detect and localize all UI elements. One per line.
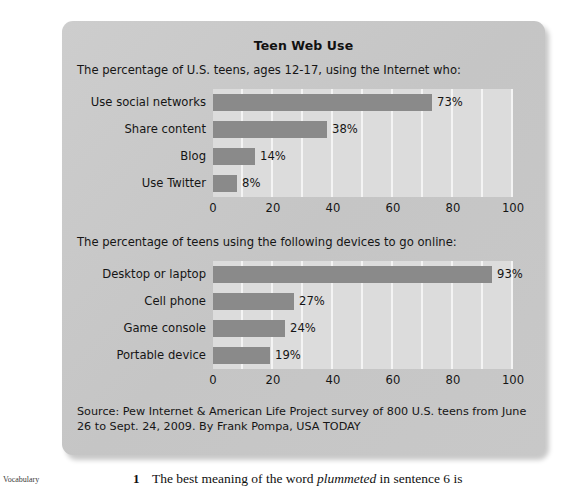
- bar-category-label: Portable device: [62, 342, 206, 369]
- bar-value-label: 27%: [294, 288, 325, 315]
- bar-value-label: 38%: [327, 116, 358, 143]
- bar-value-label: 8%: [237, 170, 260, 197]
- bar-category-label: Use Twitter: [62, 170, 206, 197]
- bar-value-label: 24%: [285, 315, 316, 342]
- bar-track: 19%: [213, 342, 513, 369]
- bar-track: 73%: [213, 89, 513, 116]
- bar-category-label: Game console: [62, 315, 206, 342]
- chart-subtitle-1: The percentage of U.S. teens, ages 12-17…: [77, 63, 461, 77]
- axis-tick-label: 0: [209, 373, 216, 387]
- bar-chart-2-rows: Desktop or laptop93%Cell phone27%Game co…: [62, 261, 545, 369]
- bar-category-label: Cell phone: [62, 288, 206, 315]
- question-italic-word: plummeted: [317, 471, 376, 486]
- bar-fill: [213, 94, 432, 111]
- bar-chart-1: Use social networks73%Share content38%Bl…: [62, 89, 545, 197]
- question-text: The best meaning of the word plummeted i…: [152, 471, 462, 487]
- bar-fill: [213, 148, 255, 165]
- bar-fill: [213, 293, 294, 310]
- source-note: Source: Pew Internet & American Life Pro…: [77, 404, 532, 434]
- bar-row: Use Twitter8%: [62, 170, 545, 197]
- bar-chart-2: Desktop or laptop93%Cell phone27%Game co…: [62, 261, 545, 369]
- bar-value-label: 19%: [270, 342, 301, 369]
- bar-row: Desktop or laptop93%: [62, 261, 545, 288]
- axis-tick-label: 100: [502, 373, 524, 387]
- bar-row: Portable device19%: [62, 342, 545, 369]
- bar-chart-1-rows: Use social networks73%Share content38%Bl…: [62, 89, 545, 197]
- bar-value-label: 93%: [492, 261, 523, 288]
- bar-track: 27%: [213, 288, 513, 315]
- axis-tick-label: 80: [446, 373, 461, 387]
- axis-tick-label: 60: [386, 201, 401, 215]
- question-number: 1: [133, 471, 140, 487]
- axis-tick-label: 80: [446, 201, 461, 215]
- bar-row: Game console24%: [62, 315, 545, 342]
- bar-row: Cell phone27%: [62, 288, 545, 315]
- bar-track: 93%: [213, 261, 513, 288]
- bar-row: Blog14%: [62, 143, 545, 170]
- axis-tick-label: 0: [209, 201, 216, 215]
- axis-tick-label: 100: [502, 201, 524, 215]
- bar-category-label: Use social networks: [62, 89, 206, 116]
- question-prefix: The best meaning of the word: [152, 471, 317, 486]
- bar-category-label: Share content: [62, 116, 206, 143]
- bar-track: 14%: [213, 143, 513, 170]
- bar-fill: [213, 121, 327, 138]
- bar-fill: [213, 320, 285, 337]
- bar-chart-2-axis: 020406080100: [213, 369, 513, 391]
- bar-track: 24%: [213, 315, 513, 342]
- bar-fill: [213, 347, 270, 364]
- bar-category-label: Blog: [62, 143, 206, 170]
- axis-tick-label: 40: [326, 201, 341, 215]
- bar-track: 8%: [213, 170, 513, 197]
- axis-tick-label: 20: [266, 201, 281, 215]
- bar-category-label: Desktop or laptop: [62, 261, 206, 288]
- bar-fill: [213, 266, 492, 283]
- axis-tick-label: 20: [266, 373, 281, 387]
- chart-subtitle-2: The percentage of teens using the follow…: [77, 235, 457, 249]
- margin-label-vocabulary: Vocabulary: [3, 475, 39, 484]
- axis-tick-label: 60: [386, 373, 401, 387]
- bar-value-label: 73%: [432, 89, 463, 116]
- page-title: Teen Web Use: [62, 38, 545, 53]
- axis-tick-label: 40: [326, 373, 341, 387]
- infographic-panel: Teen Web Use The percentage of U.S. teen…: [62, 21, 545, 455]
- question-suffix: in sentence 6 is: [376, 471, 462, 486]
- bar-value-label: 14%: [255, 143, 286, 170]
- bar-track: 38%: [213, 116, 513, 143]
- bar-fill: [213, 175, 237, 192]
- bar-row: Use social networks73%: [62, 89, 545, 116]
- bar-chart-1-axis: 020406080100: [213, 197, 513, 219]
- bar-row: Share content38%: [62, 116, 545, 143]
